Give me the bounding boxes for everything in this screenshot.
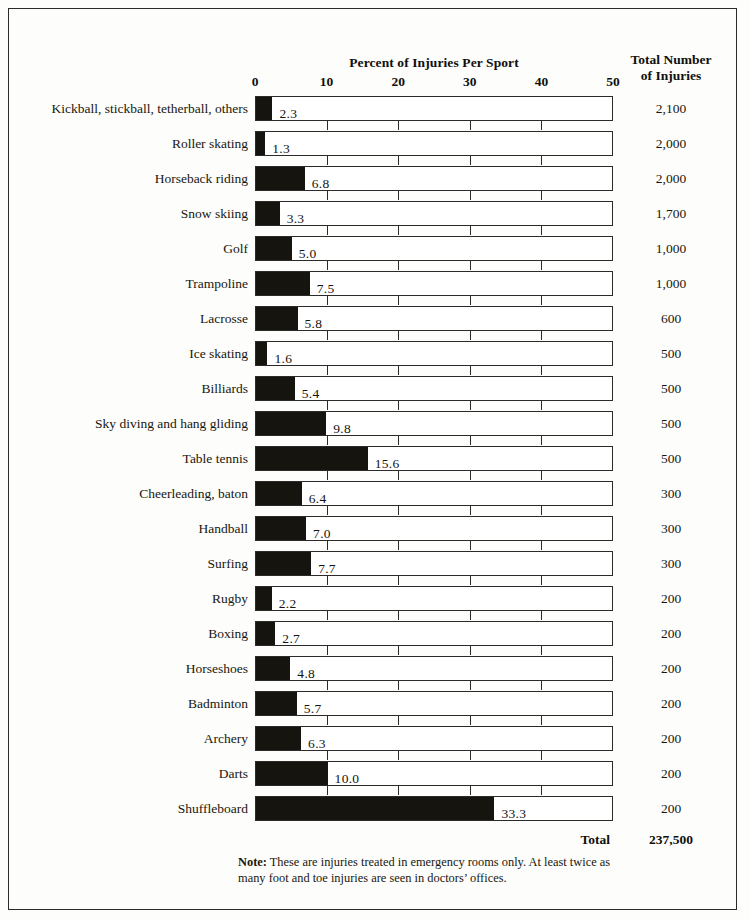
- note-prefix: Note:: [238, 855, 267, 869]
- x-axis-tick-label: 20: [391, 74, 405, 90]
- bar-value-label: 5.7: [304, 701, 322, 717]
- axis-gap-tick: [398, 681, 399, 690]
- axis-gap-tick: [541, 226, 542, 235]
- category-label: Rugby: [20, 586, 248, 621]
- axis-gap-tick: [470, 156, 471, 165]
- bar-row: 6.4: [255, 481, 613, 516]
- axis-gap-tick: [470, 471, 471, 480]
- axis-gap-tick: [327, 191, 328, 200]
- axis-gap-tick: [327, 156, 328, 165]
- axis-gap-tick: [398, 506, 399, 515]
- total-injuries-value: 500: [616, 411, 726, 446]
- axis-gap-tick: [470, 366, 471, 375]
- chart-title: Percent of Injuries Per Sport: [255, 55, 613, 71]
- bar-outline: [255, 131, 613, 156]
- category-label: Badminton: [20, 691, 248, 726]
- total-injuries-value: 200: [616, 796, 726, 831]
- bar-row: 3.3: [255, 201, 613, 236]
- bar-outline: [255, 761, 613, 786]
- axis-gap-tick: [541, 401, 542, 410]
- bar-outline: [255, 411, 613, 436]
- total-injuries-value: 300: [616, 516, 726, 551]
- bar-fill: [256, 132, 265, 155]
- bar-fill: [256, 167, 305, 190]
- totals-header-line2: of Injuries: [616, 68, 726, 84]
- bar-fill: [256, 657, 290, 680]
- bar-row: 7.0: [255, 516, 613, 551]
- axis-gap-tick: [398, 576, 399, 585]
- category-label: Sky diving and hang gliding: [20, 411, 248, 446]
- totals-header-line1: Total Number: [616, 52, 726, 68]
- axis-gap-tick: [541, 156, 542, 165]
- axis-gap-tick: [541, 716, 542, 725]
- total-row-value: 237,500: [616, 832, 726, 848]
- bar-row: 9.8: [255, 411, 613, 446]
- axis-gap-tick: [470, 436, 471, 445]
- axis-gap-tick: [327, 506, 328, 515]
- bar-value-label: 15.6: [375, 456, 400, 472]
- axis-gap-tick: [541, 681, 542, 690]
- bar-outline: [255, 621, 613, 646]
- bar-fill: [256, 587, 272, 610]
- category-label: Boxing: [20, 621, 248, 656]
- axis-gap-tick: [541, 296, 542, 305]
- axis-gap-tick: [398, 716, 399, 725]
- chart-note: Note: These are injuries treated in emer…: [238, 855, 618, 886]
- bar-row: 7.7: [255, 551, 613, 586]
- bar-value-label: 2.7: [282, 631, 300, 647]
- bar-outline: [255, 551, 613, 576]
- axis-gap-tick: [327, 401, 328, 410]
- axis-gap-tick: [398, 436, 399, 445]
- chart-page: Percent of Injuries Per Sport Total Numb…: [0, 0, 749, 920]
- bar-value-label: 33.3: [501, 806, 526, 822]
- bar-row: 7.5: [255, 271, 613, 306]
- category-label: Horseshoes: [20, 656, 248, 691]
- bar-row: 5.7: [255, 691, 613, 726]
- category-label: Horseback riding: [20, 166, 248, 201]
- bar-row: 2.3: [255, 96, 613, 131]
- axis-gap-tick: [398, 296, 399, 305]
- bar-value-label: 6.3: [308, 736, 326, 752]
- category-label: Handball: [20, 516, 248, 551]
- axis-gap-tick: [470, 576, 471, 585]
- axis-gap-tick: [398, 646, 399, 655]
- axis-gap-tick: [470, 611, 471, 620]
- category-label: Trampoline: [20, 271, 248, 306]
- bar-value-label: 10.0: [335, 771, 360, 787]
- total-injuries-value: 200: [616, 656, 726, 691]
- total-injuries-value: 300: [616, 481, 726, 516]
- axis-gap-tick: [470, 646, 471, 655]
- axis-gap-tick: [541, 611, 542, 620]
- axis-gap-tick: [327, 331, 328, 340]
- axis-gap-tick: [327, 576, 328, 585]
- axis-gap-tick: [327, 226, 328, 235]
- axis-gap-tick: [541, 786, 542, 795]
- bar-row: 5.8: [255, 306, 613, 341]
- total-injuries-value: 200: [616, 726, 726, 761]
- axis-gap-tick: [470, 191, 471, 200]
- bar-fill: [256, 762, 328, 785]
- axis-gap-tick: [398, 471, 399, 480]
- bar-fill: [256, 692, 297, 715]
- bar-fill: [256, 552, 311, 575]
- axis-gap-tick: [541, 191, 542, 200]
- bar-value-label: 3.3: [287, 211, 305, 227]
- axis-gap-tick: [327, 366, 328, 375]
- axis-gap-tick: [398, 786, 399, 795]
- category-label: Kickball, stickball, tetherball, others: [20, 96, 248, 131]
- total-injuries-value: 200: [616, 761, 726, 796]
- bar-value-label: 5.4: [302, 386, 320, 402]
- bar-fill: [256, 342, 267, 365]
- category-label: Billiards: [20, 376, 248, 411]
- bar-row: 2.2: [255, 586, 613, 621]
- category-label-column: Kickball, stickball, tetherball, othersR…: [20, 96, 248, 831]
- bar-value-label: 1.6: [274, 351, 292, 367]
- x-axis-tick-label: 0: [252, 74, 259, 90]
- axis-gap-tick: [470, 716, 471, 725]
- axis-gap-tick: [541, 331, 542, 340]
- category-label: Cheerleading, baton: [20, 481, 248, 516]
- category-label: Roller skating: [20, 131, 248, 166]
- axis-gap-tick: [398, 121, 399, 130]
- bar-fill: [256, 377, 295, 400]
- category-label: Surfing: [20, 551, 248, 586]
